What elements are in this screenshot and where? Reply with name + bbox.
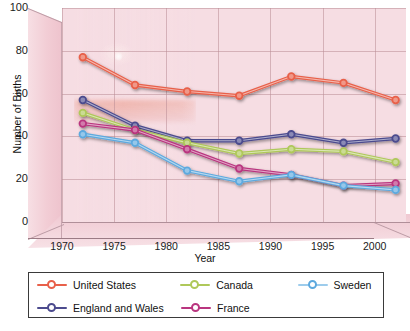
x-tick-label: 2000	[355, 240, 395, 252]
x-tick-label: 1970	[42, 240, 82, 252]
chart-screenshot: 100806040200 197019751980198519901995200…	[0, 0, 410, 331]
legend-item-canada[interactable]: Canada	[180, 273, 297, 296]
x-tick-label: 1975	[94, 240, 134, 252]
legend-item-united-states[interactable]: United States	[29, 273, 180, 296]
x-axis-ticks: 1970197519801985199019952000	[0, 0, 410, 266]
legend-item-france[interactable]: France	[181, 296, 299, 319]
chart-plot-region: 100806040200 197019751980198519901995200…	[0, 0, 410, 266]
x-tick-label: 1990	[250, 240, 290, 252]
legend-marker-icon-france	[181, 302, 211, 314]
legend-label-canada: Canada	[216, 279, 253, 291]
legend-item-sweden[interactable]: Sweden	[298, 273, 384, 296]
legend-item-england-and-wales[interactable]: England and Wales	[29, 296, 181, 319]
legend-row-2: England and Wales France	[29, 296, 383, 319]
legend-marker-icon-sweden	[298, 279, 328, 291]
legend-label-sweden: Sweden	[334, 279, 372, 291]
chart-legend: United States Canada Sweden England and …	[28, 272, 384, 318]
legend-marker-icon-england-and-wales	[37, 302, 67, 314]
legend-label-france: France	[217, 302, 250, 314]
legend-marker-icon-canada	[180, 279, 210, 291]
x-tick-label: 1995	[303, 240, 343, 252]
x-tick-label: 1980	[146, 240, 186, 252]
legend-label-england-and-wales: England and Wales	[73, 302, 164, 314]
x-tick-label: 1985	[198, 240, 238, 252]
legend-label-united-states: United States	[73, 279, 136, 291]
y-axis-title: Number of Births	[11, 59, 23, 169]
legend-row-1: United States Canada Sweden	[29, 273, 383, 296]
legend-marker-icon-united-states	[37, 279, 67, 291]
x-axis-title: Year	[150, 252, 260, 264]
